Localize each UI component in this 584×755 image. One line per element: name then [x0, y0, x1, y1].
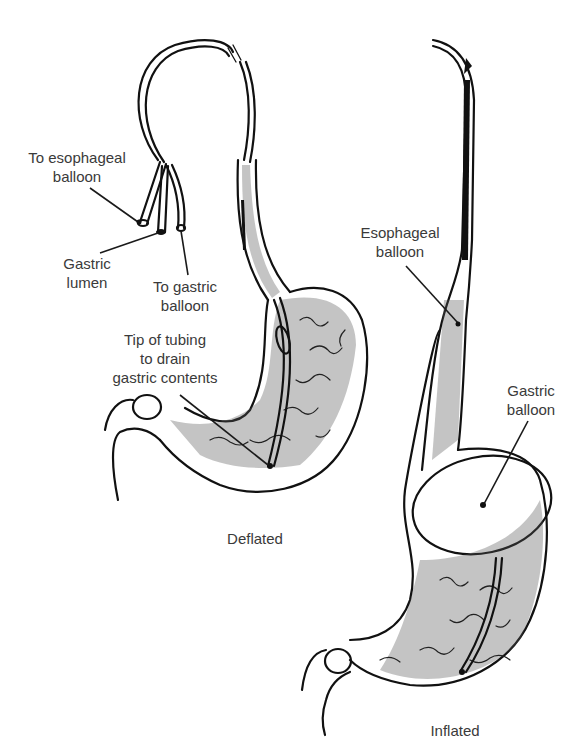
caption-inflated: Inflated: [410, 721, 500, 740]
stomach-deflated: [105, 288, 367, 500]
label-to-esophageal-balloon: To esophageal balloon: [22, 148, 132, 186]
label-line: Esophageal: [350, 223, 450, 242]
label-line: balloon: [22, 167, 132, 186]
leader-to-gastric-balloon: [181, 231, 188, 275]
label-line: To esophageal: [22, 148, 132, 167]
label-line: to drain: [100, 349, 230, 368]
label-line: Gastric: [52, 254, 122, 273]
label-line: balloon: [496, 400, 566, 419]
caption-deflated: Deflated: [210, 529, 300, 548]
label-line: Tip of tubing: [100, 330, 230, 349]
esophagus-deflated: [238, 160, 290, 300]
label-tip-of-tubing: Tip of tubing to drain gastric contents: [100, 330, 230, 387]
deflated-panel: [105, 40, 367, 500]
label-line: lumen: [52, 273, 122, 292]
tube-loop: [139, 40, 255, 162]
label-line: balloon: [140, 296, 230, 315]
label-line: To gastric: [140, 277, 230, 296]
label-esophageal-balloon: Esophageal balloon: [350, 223, 450, 261]
pylorus-deflated: [133, 395, 161, 419]
balloon-tamponade-diagram: [0, 0, 584, 755]
leader-gastric-lumen: [100, 233, 158, 253]
stomach-inflated: [302, 443, 560, 735]
esophagus-inflated: [405, 40, 474, 490]
label-to-gastric-balloon: To gastric balloon: [140, 277, 230, 315]
label-line: Gastric: [496, 381, 566, 400]
tube-ports: [138, 162, 185, 235]
pylorus-inflated: [325, 649, 351, 673]
label-line: gastric contents: [100, 368, 230, 387]
label-line: balloon: [350, 242, 450, 261]
leader-gastric-balloon: [484, 421, 528, 504]
leader-to-esophageal-balloon: [90, 188, 138, 222]
label-gastric-lumen: Gastric lumen: [52, 254, 122, 292]
label-gastric-balloon: Gastric balloon: [496, 381, 566, 419]
